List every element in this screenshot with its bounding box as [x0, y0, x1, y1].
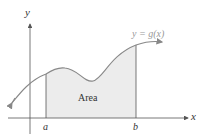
bound-a-label: a	[43, 121, 48, 132]
area-label: Area	[78, 92, 97, 103]
x-axis-label: x	[191, 110, 196, 122]
area-diagram	[0, 0, 202, 138]
bound-b-label: b	[133, 121, 138, 132]
curve-label: y = g(x)	[132, 28, 164, 39]
y-axis-label: y	[25, 6, 30, 18]
